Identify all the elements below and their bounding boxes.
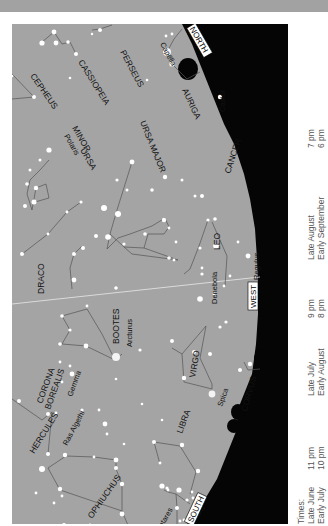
arcturus-star <box>112 353 120 361</box>
legend-time: 11 pm <box>306 447 316 470</box>
times-legend: Times: Late June Early July 11 pm 10 pm … <box>290 0 328 526</box>
legend-date: Late June <box>306 487 316 524</box>
tree-icon <box>254 349 270 369</box>
legend-date: Early July <box>316 487 326 524</box>
label-castor: Castor <box>218 89 227 112</box>
legend-date: Early September <box>316 197 326 260</box>
legend-time: 10 pm <box>316 446 326 470</box>
legend-date: Late July <box>306 362 316 396</box>
legend-date: Early August <box>316 348 326 396</box>
label-denebola: Denebola <box>210 271 219 304</box>
legend-header: Times: <box>296 499 306 524</box>
legend-date: Late August <box>306 215 316 260</box>
label-regulus: Regulus <box>252 252 261 280</box>
label-bootes: BOOTES <box>111 308 121 344</box>
legend-time: 8 pm <box>316 299 326 318</box>
legend-time: 6 pm <box>316 129 326 148</box>
legend-time: 9 pm <box>306 299 316 318</box>
top-bar <box>0 0 328 12</box>
tree-icon <box>227 419 241 433</box>
label-draco: DRACO <box>36 263 46 294</box>
star-chart: CEPHEUS CASSIOPEIA PERSEUS AURIGA MINOR … <box>12 24 288 524</box>
west-label: WEST <box>249 285 258 308</box>
tree-icon <box>178 58 198 80</box>
spica-star <box>209 391 216 398</box>
label-arcturus: Arcturus <box>125 319 134 347</box>
legend-time: 7 pm <box>306 129 316 148</box>
label-leo: LEO <box>212 233 222 250</box>
